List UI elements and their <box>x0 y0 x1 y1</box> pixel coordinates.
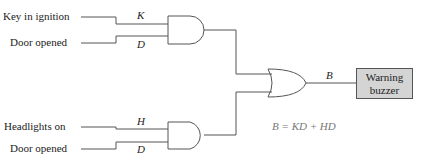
var-h: H <box>137 115 145 127</box>
input-label-headlights: Headlights on <box>4 120 65 132</box>
equation: B = KD + HD <box>272 120 336 132</box>
var-b: B <box>326 69 333 81</box>
and-gate-top <box>168 16 204 44</box>
box-line-2: buzzer <box>357 84 412 97</box>
box-line-1: Warning <box>357 71 412 84</box>
input-label-key: Key in ignition <box>3 10 70 22</box>
and-gate-bottom <box>168 122 200 149</box>
var-d-2: D <box>137 143 145 155</box>
warning-buzzer-box: Warning buzzer <box>356 68 413 99</box>
input-label-door-2: Door opened <box>10 142 67 154</box>
var-d-1: D <box>137 38 145 50</box>
input-label-door-1: Door opened <box>10 36 67 48</box>
or-gate <box>268 69 306 97</box>
var-k: K <box>137 9 144 21</box>
